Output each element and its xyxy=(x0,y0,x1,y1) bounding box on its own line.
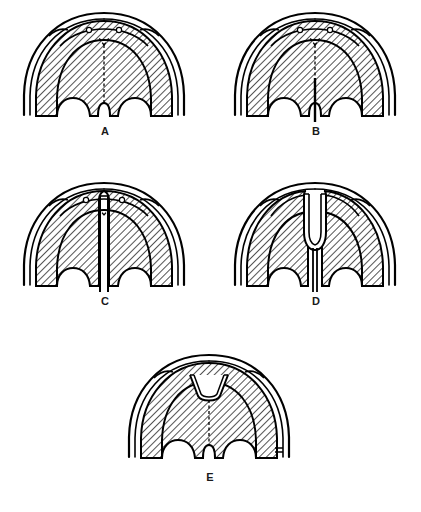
panel-b-label: B xyxy=(211,126,421,137)
panel-b: B xyxy=(211,0,421,170)
panel-e-label: E xyxy=(105,472,315,483)
panel-c-label: C xyxy=(0,296,210,307)
panel-a: A xyxy=(0,0,210,170)
panel-d: D xyxy=(211,170,421,340)
figure-root: A B xyxy=(0,0,421,512)
panel-d-label: D xyxy=(211,296,421,307)
panel-a-label: A xyxy=(0,126,210,137)
panel-e-illustration xyxy=(105,342,315,492)
panel-e: E xyxy=(105,342,315,512)
panel-c: C xyxy=(0,170,210,340)
